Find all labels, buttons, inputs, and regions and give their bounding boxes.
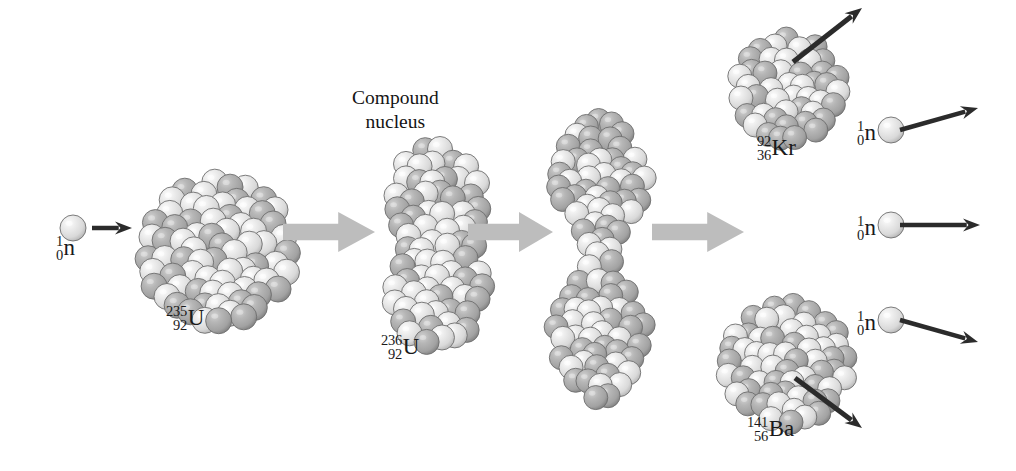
incoming-neutron-arrow (78, 214, 146, 246)
uranium-236-label-symbol: U (403, 335, 420, 358)
emitted-neutron-3-label-numbers: 10 (857, 309, 864, 339)
uranium-236-label-mass-number: 236 (381, 333, 402, 348)
barium-141-label: 14156Ba (747, 413, 794, 444)
uranium-235-label-symbol: U (188, 306, 205, 329)
emitted-neutron-3-label-mass-number: 1 (857, 309, 864, 324)
compound-nucleus-caption-line-1: Compound (352, 86, 439, 110)
krypton-92-label: 9236Kr (757, 132, 796, 163)
emitted-neutron-1-label-numbers: 10 (857, 119, 864, 149)
emitted-neutron-2-label-mass-number: 1 (857, 214, 864, 229)
barium-141-label-numbers: 14156 (747, 415, 768, 445)
emitted-neutron-1-label-symbol: n (865, 121, 877, 144)
uranium-236-label: 23692U (381, 331, 419, 362)
emitted-neutron-3-arrow (886, 306, 992, 360)
process-arrow-2 (468, 212, 553, 256)
uranium-235-label-numbers: 23592 (166, 304, 187, 334)
krypton-92-label-symbol: Kr (772, 136, 796, 159)
scission-dumbbell-nucleus (540, 104, 660, 414)
emitted-neutron-1-label-mass-number: 1 (857, 119, 864, 134)
krypton-recoil-arrow (779, 0, 876, 80)
emitted-neutron-2-label: 10n (857, 212, 876, 243)
barium-141-label-symbol: Ba (769, 417, 795, 440)
krypton-92-label-numbers: 9236 (757, 134, 771, 164)
emitted-neutron-2-arrow (886, 211, 994, 243)
uranium-236-label-atomic-number: 92 (388, 347, 402, 362)
uranium-235-label-atomic-number: 92 (173, 318, 187, 333)
incoming-neutron-label-atomic-number: 0 (56, 248, 63, 263)
emitted-neutron-3-label-atomic-number: 0 (857, 323, 864, 338)
emitted-neutron-2-label-numbers: 10 (857, 214, 864, 244)
barium-141-label-atomic-number: 56 (754, 429, 768, 444)
barium-recoil-arrow (781, 364, 876, 446)
krypton-92-label-mass-number: 92 (757, 134, 771, 149)
uranium-235-label-mass-number: 235 (166, 304, 187, 319)
incoming-neutron-label: 10n (56, 232, 75, 263)
process-arrow-1 (283, 212, 375, 256)
uranium-235-nucleus (128, 166, 306, 338)
incoming-neutron-label-symbol: n (64, 236, 76, 259)
emitted-neutron-2-label-symbol: n (865, 216, 877, 239)
uranium-235-label: 23592U (166, 302, 204, 333)
uranium-236-label-numbers: 23692 (381, 333, 402, 363)
fission-diagram: 10n23592U23692U9236Kr14156Ba10n10n10nCom… (0, 0, 1016, 471)
emitted-neutron-1-label-atomic-number: 0 (857, 133, 864, 148)
process-arrow-3 (652, 212, 744, 256)
compound-nucleus-caption: Compoundnucleus (352, 86, 439, 134)
emitted-neutron-3-label-symbol: n (865, 311, 877, 334)
emitted-neutron-1-label: 10n (857, 117, 876, 148)
incoming-neutron-label-numbers: 10 (56, 234, 63, 264)
incoming-neutron-label-mass-number: 1 (56, 234, 63, 249)
compound-nucleus-caption-line-2: nucleus (352, 110, 439, 134)
krypton-92-label-atomic-number: 36 (757, 148, 771, 163)
barium-141-label-mass-number: 141 (747, 415, 768, 430)
emitted-neutron-2-label-atomic-number: 0 (857, 228, 864, 243)
emitted-neutron-1-arrow (886, 94, 992, 148)
emitted-neutron-3-label: 10n (857, 307, 876, 338)
